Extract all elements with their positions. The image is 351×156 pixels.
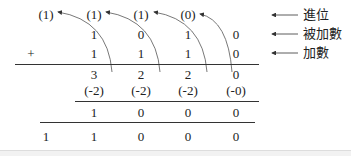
result-digit: 0 — [138, 130, 145, 144]
partial-digit: 0 — [185, 106, 192, 120]
carry-digit: (1) — [38, 8, 53, 22]
result-digit: 1 — [91, 130, 98, 144]
column-sum: 3 — [91, 68, 98, 82]
addend-digit: 1 — [138, 47, 145, 61]
plus-sign: + — [27, 47, 34, 61]
carry-digit: (1) — [133, 8, 148, 22]
augend-digit: 0 — [138, 28, 145, 42]
subtraction: (-2) — [84, 84, 104, 98]
partial-digit: 1 — [91, 106, 98, 120]
carry-digit: (0) — [180, 8, 195, 22]
binary-addition-diagram: (1) (1) (1) (0) 1 0 1 0 + 1 1 1 0 3 2 2 … — [0, 0, 351, 156]
label-carry: 進位 — [303, 8, 329, 22]
subtraction: (-2) — [131, 84, 151, 98]
subtraction: (-2) — [178, 84, 198, 98]
label-augend: 被加數 — [303, 27, 342, 41]
partial-digit: 0 — [138, 106, 145, 120]
addend-digit: 0 — [233, 47, 240, 61]
column-sum: 2 — [185, 68, 192, 82]
bottom-border — [0, 150, 351, 156]
partial-line — [75, 101, 259, 102]
label-addend: 加數 — [303, 46, 329, 60]
result-line — [40, 122, 255, 123]
column-sum: 2 — [138, 68, 145, 82]
column-sum: 0 — [233, 68, 240, 82]
subtraction: (-0) — [226, 84, 246, 98]
addend-digit: 1 — [91, 47, 98, 61]
augend-digit: 1 — [185, 28, 192, 42]
partial-digit: 0 — [233, 106, 240, 120]
result-digit: 1 — [43, 130, 50, 144]
augend-digit: 0 — [233, 28, 240, 42]
addend-digit: 1 — [185, 47, 192, 61]
result-digit: 0 — [185, 130, 192, 144]
result-digit: 0 — [233, 130, 240, 144]
augend-digit: 1 — [91, 28, 98, 42]
sum-line — [15, 64, 259, 65]
carry-arrows — [0, 0, 351, 156]
carry-digit: (1) — [86, 8, 101, 22]
